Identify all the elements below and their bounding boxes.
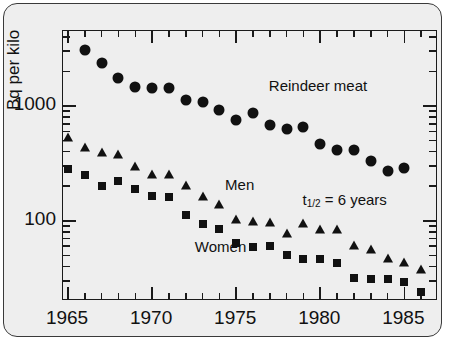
plot-area xyxy=(62,30,437,300)
data-point-men xyxy=(164,170,174,179)
data-point-men xyxy=(181,180,191,189)
x-axis-tick-label: 1975 xyxy=(195,307,275,329)
y-axis-minor-tick xyxy=(63,266,70,268)
series-label-women: Women xyxy=(195,238,246,255)
x-axis-tick-label: 1985 xyxy=(363,307,443,329)
y-axis-minor-tick-right xyxy=(429,131,436,133)
x-axis-tick-label: 1980 xyxy=(279,307,359,329)
data-point-men xyxy=(298,219,308,228)
x-axis-minor-tick-top xyxy=(286,31,288,37)
x-axis-minor-tick xyxy=(370,293,372,299)
data-point-women xyxy=(249,243,257,251)
data-point-reindeer-meat xyxy=(248,108,259,119)
annotation-half-life: t1/2 = 6 years xyxy=(302,191,386,209)
x-axis-major-tick-top xyxy=(151,31,153,43)
data-point-men xyxy=(282,229,292,238)
x-axis-minor-tick xyxy=(286,293,288,299)
y-axis-minor-tick-right xyxy=(429,280,436,282)
data-point-women xyxy=(215,225,223,233)
x-axis-minor-tick xyxy=(118,293,120,299)
y-axis-tick-label: 100 xyxy=(0,208,56,230)
data-point-women xyxy=(333,259,341,267)
data-point-men xyxy=(366,244,376,253)
data-point-reindeer-meat xyxy=(231,114,242,125)
x-axis-major-tick xyxy=(319,287,321,299)
data-point-women xyxy=(114,177,122,185)
x-axis-minor-tick-top xyxy=(252,31,254,37)
half-life-value: = 6 years xyxy=(321,191,387,208)
y-axis-major-tick-right xyxy=(423,220,436,222)
data-point-women xyxy=(350,274,358,282)
x-axis-major-tick xyxy=(404,287,406,299)
data-point-women xyxy=(199,220,207,228)
y-axis-minor-tick-right xyxy=(429,110,436,112)
y-axis-minor-tick xyxy=(63,123,70,125)
y-axis-minor-tick-right xyxy=(429,185,436,187)
y-axis-minor-tick xyxy=(63,151,70,153)
x-axis-minor-tick-top xyxy=(101,31,103,37)
data-point-men xyxy=(63,132,73,141)
x-axis-major-tick-top xyxy=(67,31,69,43)
x-axis-major-tick xyxy=(67,287,69,299)
y-axis-minor-tick xyxy=(63,231,70,233)
data-point-women xyxy=(266,242,274,250)
data-point-men xyxy=(231,215,241,224)
y-axis-minor-tick xyxy=(63,116,70,118)
x-axis-minor-tick-top xyxy=(219,31,221,37)
y-axis-minor-tick-right xyxy=(429,266,436,268)
y-axis-minor-tick xyxy=(63,50,70,52)
x-axis-major-tick-top xyxy=(319,31,321,43)
data-point-men xyxy=(265,218,275,227)
data-point-women xyxy=(367,275,375,283)
data-point-women xyxy=(98,182,106,190)
x-axis-minor-tick-top xyxy=(353,31,355,37)
y-axis-minor-tick-right xyxy=(429,116,436,118)
y-axis-minor-tick xyxy=(63,185,70,187)
data-point-women xyxy=(417,288,425,296)
x-axis-minor-tick-top xyxy=(370,31,372,37)
y-axis-tick-label: 1000 xyxy=(0,93,56,115)
data-point-reindeer-meat xyxy=(163,82,174,93)
data-point-men xyxy=(147,170,157,179)
x-axis-minor-tick xyxy=(353,293,355,299)
data-point-reindeer-meat xyxy=(348,145,359,156)
data-point-reindeer-meat xyxy=(281,124,292,135)
data-point-reindeer-meat xyxy=(399,162,410,173)
data-point-women xyxy=(182,211,190,219)
x-axis-minor-tick-top xyxy=(118,31,120,37)
data-point-reindeer-meat xyxy=(365,156,376,167)
x-axis-minor-tick xyxy=(168,293,170,299)
data-point-men xyxy=(315,224,325,233)
x-axis-major-tick xyxy=(151,287,153,299)
figure-root: Bq per kilo 100100019651970197519801985R… xyxy=(0,0,449,344)
y-axis-minor-tick-right xyxy=(429,225,436,227)
data-point-men xyxy=(97,147,107,156)
data-point-reindeer-meat xyxy=(79,44,90,55)
data-point-women xyxy=(148,192,156,200)
data-point-men xyxy=(113,150,123,159)
series-label-men: Men xyxy=(225,176,254,193)
data-point-reindeer-meat xyxy=(298,121,309,132)
x-axis-minor-tick-top xyxy=(84,31,86,37)
data-point-men xyxy=(130,162,140,171)
data-point-reindeer-meat xyxy=(197,97,208,108)
data-point-reindeer-meat xyxy=(113,73,124,84)
x-axis-minor-tick xyxy=(202,293,204,299)
data-point-men xyxy=(198,191,208,200)
data-point-men xyxy=(383,254,393,263)
data-point-men xyxy=(248,216,258,225)
y-axis-major-tick-right xyxy=(423,105,436,107)
y-axis-minor-tick-right xyxy=(429,71,436,73)
data-point-men xyxy=(416,265,426,274)
x-axis-minor-tick-top xyxy=(168,31,170,37)
x-axis-tick-label: 1970 xyxy=(111,307,191,329)
x-axis-minor-tick xyxy=(336,293,338,299)
x-axis-minor-tick-top xyxy=(269,31,271,37)
y-axis-minor-tick-right xyxy=(429,255,436,257)
x-axis-minor-tick-top xyxy=(420,31,422,37)
y-axis-minor-tick xyxy=(63,245,70,247)
y-axis-major-tick xyxy=(63,105,76,107)
data-point-reindeer-meat xyxy=(315,138,326,149)
x-axis-minor-tick-top xyxy=(303,31,305,37)
data-point-men xyxy=(399,257,409,266)
